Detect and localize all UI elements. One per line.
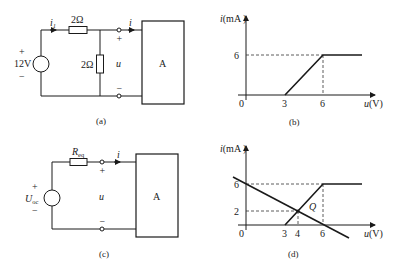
voltage-source-icon bbox=[33, 56, 49, 72]
x-tick-6: 6 bbox=[320, 228, 325, 239]
current-i1-label: i1 bbox=[50, 17, 56, 29]
voltage-u-label: u bbox=[116, 58, 121, 69]
y-tick-6: 6 bbox=[234, 50, 239, 61]
caption-c: (c) bbox=[99, 249, 109, 259]
wire-top-left bbox=[52, 162, 70, 190]
req-resistor-icon bbox=[70, 159, 87, 166]
source-voltage-label: 12V bbox=[14, 58, 32, 69]
y-axis-label: i(mA ) bbox=[220, 13, 246, 25]
x-axis-label: u(V) bbox=[364, 98, 383, 110]
uoc-label: Uoc bbox=[25, 193, 38, 205]
characteristic-line bbox=[285, 184, 362, 225]
y-tick-2: 2 bbox=[234, 206, 239, 217]
shunt-resistor-label: 2Ω bbox=[81, 59, 93, 70]
x-tick-3: 3 bbox=[282, 228, 287, 239]
terminal-minus: − bbox=[117, 83, 123, 94]
terminal-bottom-icon bbox=[100, 227, 104, 231]
caption-d: (d) bbox=[288, 249, 299, 259]
source-plus: + bbox=[19, 46, 25, 57]
load-a-label: A bbox=[159, 58, 167, 69]
q-point-label: Q bbox=[309, 201, 317, 212]
wire-top-left bbox=[41, 30, 69, 56]
series-resistor-icon bbox=[69, 27, 87, 34]
current-i-label: i bbox=[129, 17, 132, 28]
source-minus: − bbox=[19, 71, 25, 82]
voltage-u-label: u bbox=[99, 191, 104, 202]
x-axis-label: u(V) bbox=[364, 228, 383, 240]
current-i-label: i bbox=[117, 149, 120, 160]
origin-label: 0 bbox=[239, 228, 244, 239]
x-tick-4: 4 bbox=[295, 228, 300, 239]
y-axis-label: i(mA ) bbox=[220, 143, 246, 155]
terminal-top-icon bbox=[117, 28, 121, 32]
terminal-plus: + bbox=[100, 165, 106, 176]
x-tick-6: 6 bbox=[320, 98, 325, 109]
load-a-label: A bbox=[153, 191, 161, 202]
x-tick-3: 3 bbox=[282, 98, 287, 109]
terminal-minus: − bbox=[100, 216, 106, 227]
circuit-c: Req + Uoc − + − u i A (c) bbox=[25, 146, 178, 259]
origin-label: 0 bbox=[239, 98, 244, 109]
source-plus: + bbox=[32, 181, 38, 192]
chart-d: Q i(mA ) 6 2 0 3 4 6 u(V) (d) bbox=[220, 143, 383, 259]
terminal-plus: + bbox=[117, 33, 123, 44]
figure-canvas: i1 2Ω 2Ω + 12V − + − u i A (a) i(mA ) 6 bbox=[0, 0, 398, 272]
req-label: Req bbox=[71, 146, 85, 158]
source-minus: − bbox=[32, 205, 38, 216]
terminal-bottom-icon bbox=[117, 94, 121, 98]
caption-b: (b) bbox=[289, 117, 300, 127]
q-point-icon bbox=[296, 209, 299, 212]
wire-bottom bbox=[41, 72, 117, 96]
series-resistor-label: 2Ω bbox=[71, 14, 83, 25]
wire-bottom bbox=[52, 206, 100, 229]
shunt-resistor-icon bbox=[97, 55, 104, 73]
caption-a: (a) bbox=[96, 116, 106, 126]
chart-b: i(mA ) 6 0 3 6 u(V) (b) bbox=[220, 13, 383, 127]
characteristic-line bbox=[285, 55, 362, 95]
voltage-source-icon bbox=[44, 190, 60, 206]
circuit-a: i1 2Ω 2Ω + 12V − + − u i A (a) bbox=[14, 14, 184, 126]
load-line bbox=[233, 177, 349, 238]
terminal-top-icon bbox=[100, 160, 104, 164]
y-tick-6: 6 bbox=[234, 179, 239, 190]
